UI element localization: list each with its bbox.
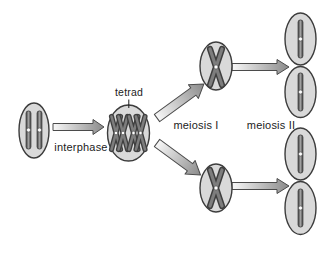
- chromosome-icon: [298, 189, 303, 227]
- chromosome-icon: [298, 20, 303, 58]
- tetrad-cell: [108, 105, 150, 161]
- chromosome-icon: [37, 111, 42, 149]
- cell-membrane: [19, 103, 49, 158]
- arrow-meiosis1-lower: [152, 136, 206, 182]
- gamete-cell-2: [285, 67, 316, 118]
- meiosis1-cell-lower: [200, 164, 232, 212]
- parent-cell: [19, 103, 49, 158]
- arrow-meiosis1-upper: [152, 77, 209, 125]
- arrow-meiosis2-upper: [232, 60, 289, 75]
- chromosome-icon: [26, 111, 31, 149]
- chromosome-icon: [298, 73, 303, 111]
- gamete-cell-1: [285, 13, 316, 65]
- arrow-meiosis2-lower: [232, 179, 289, 194]
- interphase-label: interphase: [54, 142, 107, 153]
- meiosis2-label: meiosis II: [247, 120, 295, 131]
- arrow-interphase: [53, 120, 104, 135]
- meiosis-diagram: tetrad interphase meiosis I meiosis II: [0, 0, 334, 253]
- gamete-cell-4: [285, 182, 316, 235]
- meiosis1-label: meiosis I: [173, 120, 218, 131]
- chromosome-icon: [298, 135, 303, 173]
- gamete-cell-3: [285, 128, 316, 180]
- meiosis1-cell-upper: [200, 42, 232, 90]
- tetrad-label: tetrad: [115, 87, 143, 98]
